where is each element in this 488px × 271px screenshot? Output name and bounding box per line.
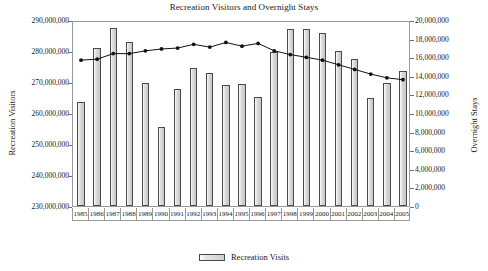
x-axis-tick-label: 2000 [313,208,329,220]
x-axis-tick-label: 2002 [346,208,362,220]
x-axis-tick-label: 1998 [281,208,297,220]
x-axis-tick-label: 1986 [88,208,104,220]
x-axis-tick-label: 1989 [136,208,152,220]
y-axis-tick-label: 260,000,000 [0,110,69,118]
y2-axis-tickmark [410,133,414,134]
y-axis-tickmark [68,145,72,146]
y-axis-tickmark [68,83,72,84]
overnight-stays-marker [95,57,99,61]
x-axis-tick-label: 1995 [233,208,249,220]
overnight-stays-marker [127,52,131,56]
y2-axis-tickmark [410,207,414,208]
chart-container: Recreation Visitors and Overnight Stays … [0,0,488,271]
x-axis-tick-label: 2004 [378,208,394,220]
y-axis-tickmark [68,207,72,208]
overnight-stays-marker [385,76,389,80]
y2-axis-tickmark [410,170,414,171]
x-axis-tick-label: 1994 [217,208,233,220]
y-axis-title: Recreation Visitors [7,73,17,173]
x-axis-tick-label: 1993 [201,208,217,220]
x-axis-tick-label: 1985 [72,208,88,220]
y-axis-tick-label: 280,000,000 [0,48,69,56]
overnight-stays-marker [79,58,83,62]
y2-axis-tickmark [410,151,414,152]
overnight-stays-marker [353,68,357,72]
y2-axis-tickmark [410,40,414,41]
y2-axis-tickmark [410,95,414,96]
overnight-stays-marker [208,45,212,49]
overnight-stays-marker [337,63,341,67]
overnight-stays-marker [224,41,228,45]
y-axis-tick-label: 270,000,000 [0,79,69,87]
y2-axis-tick-label: 16,000,000 [415,54,488,62]
y2-axis-tick-label: 6,000,000 [415,147,488,155]
y-axis-tickmark [68,114,72,115]
y2-axis-tickmark [410,114,414,115]
overnight-stays-marker [240,44,244,48]
y2-axis-tick-label: 18,000,000 [415,36,488,44]
y2-axis-tick-label: 14,000,000 [415,73,488,81]
x-axis-tick-label: 2003 [362,208,378,220]
x-axis-tick-label: 2005 [394,208,410,220]
x-axis-line [72,220,410,221]
y2-axis-tick-label: 10,000,000 [415,110,488,118]
y-axis-tick-label: 240,000,000 [0,172,69,180]
y-axis-tickmark [68,176,72,177]
x-axis-tick-label: 1999 [297,208,313,220]
chart-title: Recreation Visitors and Overnight Stays [0,2,488,12]
overnight-stays-marker [304,55,308,59]
overnight-stays-marker [111,52,115,56]
overnight-stays-marker [369,72,373,76]
overnight-stays-marker [401,78,405,82]
overnight-stays-line [73,22,411,208]
overnight-stays-marker [160,47,164,51]
x-axis-tick-label: 2001 [330,208,346,220]
overnight-stays-marker [321,58,325,62]
legend-swatch-recreation-visits [199,254,225,261]
y2-axis-tickmark [410,58,414,59]
x-axis-tick-label: 1997 [265,208,281,220]
overnight-stays-marker [176,46,180,50]
overnight-stays-marker [272,49,276,53]
y2-axis-tick-label: 8,000,000 [415,129,488,137]
overnight-stays-marker [192,42,196,46]
overnight-stays-marker [288,53,292,57]
y2-axis-tickmark [410,21,414,22]
chart-legend: Recreation Visits [0,252,488,262]
x-axis-tick-label: 1996 [249,208,265,220]
y2-axis-tick-label: 4,000,000 [415,166,488,174]
x-axis-tick-label: 1988 [120,208,136,220]
y2-axis-tick-label: 12,000,000 [415,91,488,99]
y2-axis-tickmark [410,188,414,189]
y-axis-tick-label: 250,000,000 [0,141,69,149]
plot-area [72,21,410,207]
x-axis-tick-label: 1991 [169,208,185,220]
x-axis-tick-label: 1987 [104,208,120,220]
y2-axis-tick-label: 2,000,000 [415,184,488,192]
y-axis-tick-label: 290,000,000 [0,17,69,25]
y2-axis-title: Overnight Stays [469,75,479,175]
overnight-stays-marker [256,41,260,45]
y2-axis-tick-label: 0 [415,203,488,211]
y-axis-tick-label: 230,000,000 [0,203,69,211]
overnight-stays-marker [144,49,148,53]
y2-axis-tickmark [410,77,414,78]
y-axis-tickmark [68,52,72,53]
y-axis-tickmark [68,21,72,22]
legend-label-recreation-visits: Recreation Visits [231,252,289,262]
x-axis-tick-label: 1992 [185,208,201,220]
x-axis-tick-label: 1990 [152,208,168,220]
y2-axis-tick-label: 20,000,000 [415,17,488,25]
